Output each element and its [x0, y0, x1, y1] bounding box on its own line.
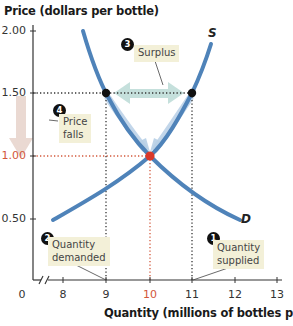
- y-tick-2.00: 2.00: [0, 24, 26, 37]
- x-tick-10: 10: [140, 288, 160, 301]
- note-quantity-supplied: Quantity supplied: [213, 240, 264, 269]
- note-surplus-text: Surplus: [138, 47, 175, 60]
- x-tick-9: 9: [96, 288, 116, 301]
- supply-curve-label: S: [208, 26, 217, 40]
- note-quantity-demanded: Quantity demanded: [48, 237, 110, 266]
- x-tick-8: 8: [53, 288, 73, 301]
- x-tick-11: 11: [182, 288, 202, 301]
- surplus-leader-line: [154, 58, 163, 85]
- note-quantity-demanded-line2: demanded: [52, 252, 106, 265]
- demand-curve-label: D: [241, 212, 251, 226]
- x-tick-0: 0: [12, 288, 32, 301]
- x-tick-13: 13: [267, 288, 287, 301]
- x-tick-12: 12: [225, 288, 245, 301]
- y-tick-0.50: 0.50: [0, 212, 26, 225]
- y-tick-1.50: 1.50: [0, 86, 26, 99]
- point-quantity-supplied: [188, 89, 196, 97]
- note-quantity-supplied-line1: Quantity: [217, 242, 260, 255]
- note-price-falls-line1: Price: [63, 116, 87, 129]
- note-quantity-supplied-line2: supplied: [217, 255, 260, 268]
- point-quantity-demanded: [102, 89, 110, 97]
- note-quantity-demanded-line1: Quantity: [52, 239, 106, 252]
- note-price-falls: Price falls: [59, 114, 91, 143]
- qty-demanded-leader-line: [76, 265, 106, 280]
- price-falls-leader-line: [49, 120, 58, 121]
- badge-3: 3: [121, 38, 134, 51]
- note-price-falls-line2: falls: [63, 129, 87, 142]
- note-surplus: Surplus: [134, 45, 179, 62]
- point-equilibrium: [145, 151, 154, 160]
- y-tick-1.00: 1.00: [0, 149, 26, 162]
- qty-supplied-leader-line: [193, 268, 228, 280]
